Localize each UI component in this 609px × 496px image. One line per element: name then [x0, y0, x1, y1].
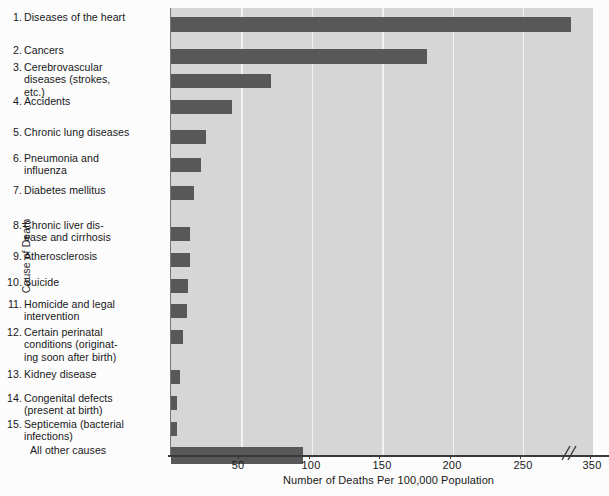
- category-label-12: 12. Certain perinatal conditions (origin…: [24, 326, 162, 363]
- bar-4: [171, 100, 232, 114]
- bar-9: [171, 253, 190, 267]
- bar-11: [171, 304, 187, 318]
- x-tick-label-100: 100: [302, 459, 321, 471]
- category-number-6: 6.: [0, 152, 22, 164]
- bar-13: [171, 370, 180, 384]
- category-number-5: 5.: [0, 126, 22, 138]
- category-label-10: 10. Suicide: [24, 276, 162, 288]
- category-number-10: 10.: [0, 276, 22, 288]
- axis-break-icon: [556, 444, 582, 462]
- category-number-8: 8.: [0, 219, 22, 231]
- x-tick-label-50: 50: [232, 459, 245, 471]
- bar-12: [171, 330, 183, 344]
- x-tick-label-350: 350: [583, 459, 602, 471]
- bar-3: [171, 74, 271, 88]
- gridline-250: [523, 8, 524, 455]
- bar-14: [171, 396, 177, 410]
- x-tick-label-150: 150: [373, 459, 392, 471]
- category-number-1: 1.: [0, 11, 22, 23]
- gridline-150: [382, 8, 383, 455]
- gridline-100: [312, 8, 313, 455]
- category-label-9: 9. Atherosclerosis: [24, 250, 162, 262]
- category-number-9: 9.: [0, 250, 22, 262]
- bar-8: [171, 227, 190, 241]
- bar-15: [171, 422, 177, 436]
- x-axis-line: [168, 455, 609, 457]
- bar-10: [171, 279, 188, 293]
- bar-5: [171, 130, 206, 144]
- category-number-11: 11.: [0, 298, 22, 310]
- category-label-5: 5. Chronic lung diseases: [24, 126, 162, 138]
- bar-7: [171, 186, 194, 200]
- category-number-13: 13.: [0, 368, 22, 380]
- bar-1: [171, 17, 571, 32]
- bar-6: [171, 158, 201, 172]
- category-label-14: 14. Congenital defects (present at birth…: [24, 392, 162, 417]
- category-label-2: 2. Cancers: [24, 44, 162, 56]
- category-label-1: 1. Diseases of the heart: [24, 11, 162, 23]
- category-label-column: 1. Diseases of the heart 2. Cancers 3. C…: [0, 0, 168, 455]
- category-label-11: 11. Homicide and legal intervention: [24, 298, 162, 323]
- category-label-3: 3. Cerebrovascular diseases (strokes, et…: [24, 61, 162, 98]
- category-number-7: 7.: [0, 184, 22, 196]
- category-number-12: 12.: [0, 326, 22, 338]
- bar-chart-figure: Cause of Death 1. Diseases of the heart …: [0, 0, 609, 496]
- bar-2: [171, 49, 427, 64]
- category-label-7: 7. Diabetes mellitus: [24, 184, 162, 196]
- category-label-6: 6. Pneumonia and influenza: [24, 152, 162, 177]
- category-label-13: 13. Kidney disease: [24, 368, 162, 380]
- x-tick-label-250: 250: [514, 459, 533, 471]
- category-number-15: 15.: [0, 418, 22, 430]
- category-number-14: 14.: [0, 392, 22, 404]
- category-label-4: 4. Accidents: [24, 95, 162, 107]
- category-label-8: 8. Chronic liver dis- ease and cirrhosis: [24, 219, 162, 244]
- plot-area: [170, 8, 593, 455]
- category-label-other: All other causes: [30, 444, 162, 456]
- gridline-200: [453, 8, 454, 455]
- category-label-15: 15. Septicemia (bacterial infections): [24, 418, 162, 443]
- x-tick-label-200: 200: [443, 459, 462, 471]
- category-number-4: 4.: [0, 95, 22, 107]
- category-number-2: 2.: [0, 44, 22, 56]
- x-axis-label: Number of Deaths Per 100,000 Population: [168, 474, 609, 486]
- category-number-3: 3.: [0, 61, 22, 73]
